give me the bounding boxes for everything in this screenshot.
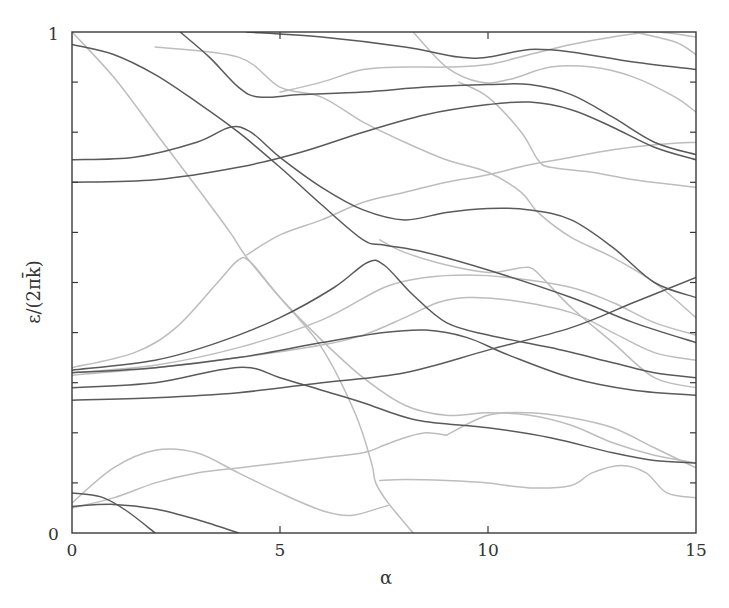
y-tick-label-0: 0: [48, 524, 59, 544]
curve-light-10: [380, 240, 696, 388]
tick-marks: [72, 32, 696, 533]
curve-light-7: [72, 433, 446, 508]
x-axis-label: α: [380, 567, 392, 588]
curve-dark-11: [72, 504, 238, 533]
plot-frame: [72, 32, 696, 533]
curve-light-14: [413, 32, 696, 112]
curve-light-1: [72, 32, 413, 533]
curve-dark-7: [72, 330, 696, 395]
band-structure-chart: 1 0 0 5 10 15 α ε/(2πk̄): [0, 0, 729, 608]
curve-dark-4: [72, 102, 696, 182]
curve-dark-6: [72, 260, 696, 378]
curve-light-9: [446, 412, 696, 468]
x-tick-label-15: 15: [685, 540, 707, 560]
y-axis-label: ε/(2πk̄): [21, 260, 44, 324]
curve-dark-5: [247, 32, 696, 70]
x-tick-label-5: 5: [275, 540, 286, 560]
curves-layer: [72, 32, 696, 533]
y-tick-label-1: 1: [48, 24, 59, 44]
curve-dark-10: [72, 493, 155, 533]
x-tick-label-10: 10: [477, 540, 499, 560]
curve-dark-3: [72, 127, 696, 298]
curve-light-8: [380, 465, 696, 498]
x-tick-label-0: 0: [67, 540, 78, 560]
